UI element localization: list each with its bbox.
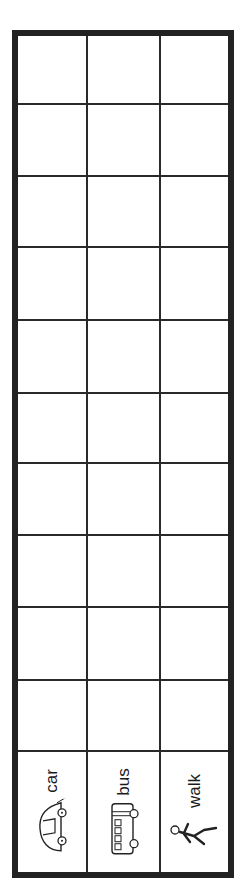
label-walk: walk [185, 774, 205, 808]
label-cell-car: car [18, 752, 86, 872]
label-cell-walk: walk [161, 752, 228, 872]
row-divider [18, 103, 228, 105]
row-divider [18, 319, 228, 321]
row-divider [18, 246, 228, 248]
column-divider [159, 36, 161, 872]
row-divider [18, 175, 228, 177]
row-divider [18, 679, 228, 681]
label-car: car [42, 769, 62, 793]
bus-icon [109, 802, 139, 856]
row-divider [18, 462, 228, 464]
row-divider [18, 534, 228, 536]
walking-person-icon [170, 814, 220, 850]
column-divider [86, 36, 88, 872]
label-bus: bus [114, 768, 134, 795]
row-divider [18, 392, 228, 394]
row-divider [18, 606, 228, 608]
car-icon [35, 799, 69, 855]
label-cell-bus: bus [88, 752, 159, 872]
tally-grid: car bus [12, 30, 234, 878]
